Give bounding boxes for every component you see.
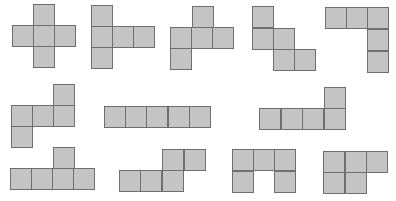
- net-square: [345, 151, 367, 173]
- net-square: [191, 27, 213, 49]
- net-square: [162, 149, 184, 171]
- net-square: [345, 172, 367, 194]
- net-square: [91, 47, 113, 69]
- net-square: [54, 25, 76, 47]
- net-square: [192, 6, 214, 28]
- net-square: [324, 87, 346, 109]
- net-square: [146, 106, 168, 128]
- net-square: [367, 7, 389, 29]
- net-square: [302, 108, 324, 130]
- net-square: [52, 168, 74, 190]
- net-square: [170, 27, 192, 49]
- net-square: [253, 149, 275, 171]
- net-square: [367, 29, 389, 51]
- net-square: [346, 7, 368, 29]
- net-square: [12, 25, 34, 47]
- net-square: [323, 151, 345, 173]
- net-square: [324, 108, 346, 130]
- net-square: [189, 106, 211, 128]
- net-square: [125, 106, 147, 128]
- net-square: [140, 170, 162, 192]
- net-square: [252, 28, 274, 50]
- net-square: [274, 149, 296, 171]
- net-square: [294, 49, 316, 71]
- net-square: [119, 170, 141, 192]
- net-square: [53, 105, 75, 127]
- net-square: [33, 4, 55, 26]
- net-square: [112, 26, 134, 48]
- net-square: [11, 126, 33, 148]
- net-square: [31, 168, 53, 190]
- net-square: [252, 6, 274, 28]
- net-square: [168, 106, 190, 128]
- net-square: [184, 149, 206, 171]
- net-square: [53, 84, 75, 106]
- net-square: [232, 171, 254, 193]
- net-square: [33, 25, 55, 47]
- net-square: [259, 108, 281, 130]
- net-square: [232, 149, 254, 171]
- net-square: [91, 26, 113, 48]
- net-square: [367, 51, 389, 73]
- net-square: [32, 105, 54, 127]
- net-square: [162, 170, 184, 192]
- net-square: [281, 108, 303, 130]
- net-square: [133, 26, 155, 48]
- net-square: [91, 5, 113, 27]
- net-square: [212, 27, 234, 49]
- net-square: [323, 172, 345, 194]
- net-square: [11, 105, 33, 127]
- net-square: [273, 28, 295, 50]
- net-square: [73, 168, 95, 190]
- net-square: [274, 171, 296, 193]
- net-square: [53, 147, 75, 169]
- net-square: [104, 106, 126, 128]
- net-square: [273, 49, 295, 71]
- net-square: [10, 168, 32, 190]
- net-square: [366, 151, 388, 173]
- net-square: [325, 7, 347, 29]
- net-square: [170, 48, 192, 70]
- net-square: [33, 46, 55, 68]
